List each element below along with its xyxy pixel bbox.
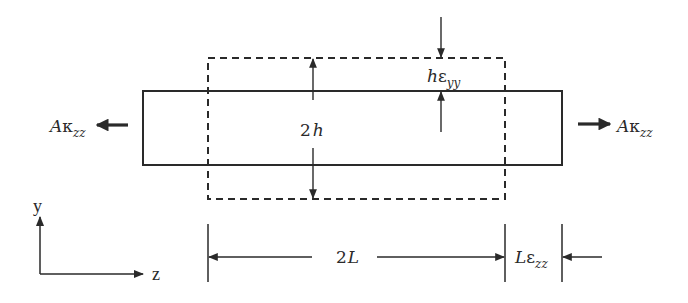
axial-strain-label: Lεzz [514, 247, 548, 271]
original-bar [143, 91, 562, 165]
force-right-label: Aκzz [615, 116, 653, 140]
length-dimension: 2L [208, 224, 505, 282]
length-label: 2L [336, 247, 359, 267]
transverse-strain-dimension: hεyy [427, 17, 461, 132]
deformation-diagram: 2h hεyy Aκzz Aκzz y z 2L Lεzz [0, 0, 688, 303]
z-axis-label: z [152, 264, 160, 284]
axial-strain-dimension: Lεzz [514, 224, 602, 282]
coordinate-axes: y z [33, 196, 160, 284]
left-force: Aκzz [48, 116, 128, 140]
height-dimension: 2h [300, 59, 324, 198]
y-axis-label: y [33, 196, 42, 216]
transverse-strain-label: hεyy [427, 66, 461, 90]
deformed-bar [208, 58, 505, 199]
height-label: 2h [300, 120, 324, 140]
force-left-label: Aκzz [48, 116, 86, 140]
right-force: Aκzz [578, 116, 653, 140]
